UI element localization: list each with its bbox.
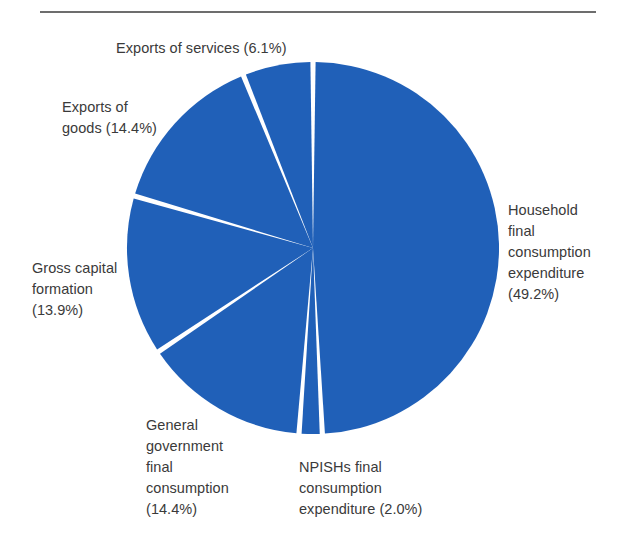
slice-label-exports-of-goods: Exports of goods (14.4%) [62,97,212,139]
slice-label-general-government-final-consumption: General government final consumption (14… [146,415,296,520]
figure-container: Exports of services (6.1%) Exports of go… [0,0,624,539]
slice-label-exports-of-services: Exports of services (6.1%) [116,38,366,59]
slice-label-npishs-final-consumption-expenditure: NPISHs final consumption expenditure (2.… [299,457,489,520]
pie-slice[interactable] [313,62,499,434]
slice-label-gross-capital-formation: Gross capital formation (13.9%) [32,258,192,321]
slice-label-household-final-consumption-expenditure: Household final consumption expenditure … [508,200,623,305]
